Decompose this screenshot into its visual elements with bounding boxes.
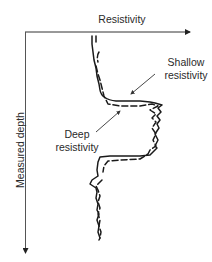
shallow-label-line1: Shallow [158, 56, 212, 69]
resistivity-log-diagram [0, 0, 212, 262]
deep-label-line2: resistivity [50, 141, 104, 154]
y-axis-label: Measured depth [14, 110, 26, 190]
shallow-resistivity-curve [96, 36, 158, 238]
shallow-label-line2: resistivity [158, 69, 212, 82]
shallow-resistivity-label: Shallow resistivity [158, 56, 212, 82]
shallow-pointer-arrow [131, 74, 155, 94]
x-axis-label: Resistivity [92, 13, 152, 25]
deep-label-line1: Deep [50, 128, 104, 141]
deep-resistivity-label: Deep resistivity [50, 128, 104, 154]
